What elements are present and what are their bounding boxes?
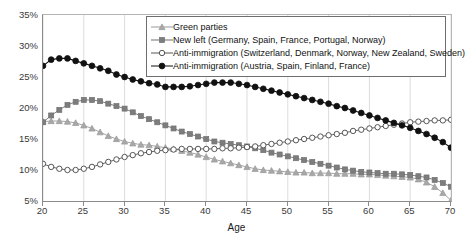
x-axis-tick xyxy=(124,202,125,206)
legend-label: Green parties xyxy=(173,21,228,33)
y-axis-tick-label: 35% xyxy=(0,9,38,20)
legend-item: Green parties xyxy=(151,20,440,33)
x-axis-tick xyxy=(42,202,43,206)
x-axis-tick-label: 40 xyxy=(200,205,211,216)
legend-marker-icon xyxy=(151,47,173,59)
data-series xyxy=(43,118,451,201)
x-axis-tick xyxy=(368,202,369,206)
legend-label: Anti-immigration (Switzerland, Denmark, … xyxy=(173,47,465,59)
x-axis-tick xyxy=(287,202,288,206)
x-axis-tick-label: 50 xyxy=(282,205,293,216)
y-axis-tick-label: 25% xyxy=(0,71,38,82)
x-axis-title: Age xyxy=(0,222,473,233)
x-axis-tick-label: 20 xyxy=(37,205,48,216)
x-axis-tick xyxy=(328,202,329,206)
x-axis-tick xyxy=(246,202,247,206)
legend-marker-icon xyxy=(151,34,173,46)
x-axis-tick xyxy=(450,202,451,206)
legend-item: Anti-immigration (Switzerland, Denmark, … xyxy=(151,46,440,59)
y-axis-tick-label: 15% xyxy=(0,133,38,144)
legend-item: New left (Germany, Spain, France, Portug… xyxy=(151,33,440,46)
legend-marker-icon xyxy=(151,60,173,72)
y-axis-tick-label: 20% xyxy=(0,102,38,113)
y-axis-tick-label: 30% xyxy=(0,40,38,51)
legend-item: Anti-immigration (Austria, Spain, Finlan… xyxy=(151,59,440,72)
x-axis-tick-label: 55 xyxy=(322,205,333,216)
x-axis-tick xyxy=(164,202,165,206)
x-axis-tick-label: 60 xyxy=(363,205,374,216)
y-axis-tick-label: 5% xyxy=(0,195,38,206)
x-axis-tick xyxy=(83,202,84,206)
chart-container: 5%10%15%20%25%30%35% 2025303540455055606… xyxy=(0,0,473,244)
legend-label: Anti-immigration (Austria, Spain, Finlan… xyxy=(173,60,370,72)
x-axis-tick-label: 25 xyxy=(78,205,89,216)
x-axis-tick-label: 65 xyxy=(404,205,415,216)
chart-legend: Green partiesNew left (Germany, Spain, F… xyxy=(146,16,446,77)
legend-label: New left (Germany, Spain, France, Portug… xyxy=(173,34,385,46)
x-axis-tick-label: 45 xyxy=(241,205,252,216)
legend-marker-icon xyxy=(151,21,173,33)
y-axis-tick-label: 10% xyxy=(0,164,38,175)
x-axis-tick-label: 35 xyxy=(159,205,170,216)
x-axis-tick xyxy=(205,202,206,206)
x-axis-tick-label: 70 xyxy=(445,205,456,216)
x-axis-tick xyxy=(409,202,410,206)
x-axis-tick-label: 30 xyxy=(118,205,129,216)
